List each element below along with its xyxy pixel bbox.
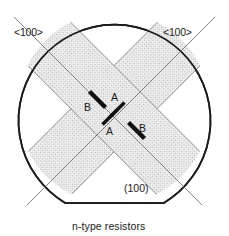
wafer-orientation-figure: <100> <100> A A B B (100) n-type resisto… bbox=[0, 0, 229, 236]
resistor-label-b-lower: B bbox=[139, 123, 146, 134]
direction-label-right: <100> bbox=[163, 27, 192, 38]
figure-caption: n-type resistors bbox=[72, 221, 145, 232]
direction-label-left: <100> bbox=[14, 27, 43, 38]
wafer-plane-label: (100) bbox=[124, 183, 149, 194]
resistor-label-b-upper: B bbox=[84, 102, 91, 113]
resistor-label-a-upper: A bbox=[111, 92, 118, 103]
resistor-label-a-lower: A bbox=[106, 126, 113, 137]
